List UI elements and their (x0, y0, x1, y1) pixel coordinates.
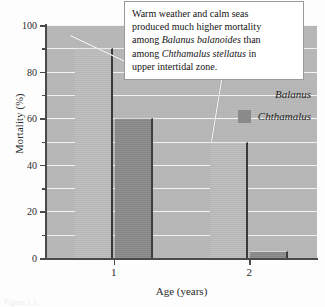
y-tick-label-20: 20 (27, 206, 37, 217)
bar-texture (210, 143, 246, 259)
y-axis-title: Mortality (%) (14, 69, 25, 179)
y-tick-10 (42, 235, 45, 237)
y-tick-90 (42, 48, 45, 50)
caption-fragment: Figure 1.1 (4, 298, 37, 307)
annotation-callout: Warm weather and calm seas produced much… (124, 1, 304, 80)
y-tick-100 (40, 25, 45, 27)
bar-texture (115, 119, 151, 258)
callout-line-3: among Balanus balanoides than (132, 33, 296, 46)
bar-texture (75, 49, 111, 258)
y-tick-70 (42, 95, 45, 97)
x-tick-label-2: 2 (247, 266, 253, 278)
bar-chthamalus-age-2 (250, 251, 288, 258)
legend-swatch-chthamalus (238, 110, 251, 123)
x-tick-label-1: 1 (111, 266, 117, 278)
callout-line-2: produced much higher mortality (132, 20, 296, 33)
y-axis-line (45, 24, 47, 259)
y-tick-80 (40, 72, 45, 74)
x-tick-2 (249, 260, 251, 265)
x-axis-line (45, 258, 318, 260)
legend-swatch-balanus (255, 88, 268, 101)
bar-chthamalus-age-1 (115, 118, 153, 258)
callout-line-5: upper intertidal zone. (132, 60, 296, 73)
y-tick-label-60: 60 (27, 113, 37, 124)
legend-label-chthamalus: Chthamalus (258, 110, 311, 122)
legend-label-balanus: Balanus (275, 88, 311, 100)
y-tick-40 (40, 165, 45, 167)
barnacle-mortality-figure: Balanus Chthamalus 020406080100 12 Morta… (0, 0, 325, 307)
y-tick-50 (42, 142, 45, 144)
y-tick-label-100: 100 (22, 20, 37, 31)
bar-balanus-age-1 (75, 48, 113, 258)
y-tick-label-40: 40 (27, 159, 37, 170)
x-tick-1 (114, 260, 116, 265)
y-tick-60 (40, 118, 45, 120)
y-tick-0 (40, 258, 45, 260)
y-tick-label-0: 0 (32, 253, 37, 264)
y-tick-20 (40, 211, 45, 213)
callout-line-4: among Chthamalus stellatus in (132, 47, 296, 60)
callout-line-1: Warm weather and calm seas (132, 7, 296, 20)
bar-balanus-age-2 (210, 142, 248, 259)
legend-item-balanus: Balanus (199, 83, 311, 105)
x-axis-title: Age (years) (46, 285, 317, 297)
y-tick-30 (42, 188, 45, 190)
y-tick-label-80: 80 (27, 66, 37, 77)
